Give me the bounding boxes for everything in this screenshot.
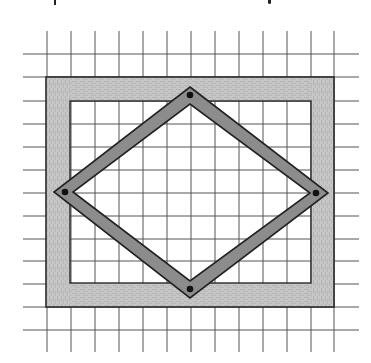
pin-joint-icon [187, 92, 194, 99]
pin-joint-icon [313, 190, 320, 197]
wooden-frame [46, 77, 334, 307]
pin-joint-icon [62, 189, 69, 196]
pin-joint-icon [187, 286, 194, 293]
frame-diamond-diagram [0, 0, 371, 363]
frame-outer-edge [46, 77, 334, 307]
